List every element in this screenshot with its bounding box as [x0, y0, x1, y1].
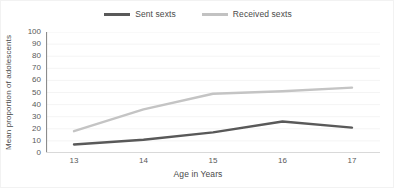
x-axis-tick-label: 16 [278, 157, 287, 165]
legend-label-received-sexts: Received sexts [233, 9, 292, 19]
chart-legend: Sent sexts Received sexts [1, 5, 394, 23]
plot-area [46, 32, 380, 153]
y-axis-title-text: Mean proportion of adolescents [5, 34, 14, 149]
y-axis-tick-label: 30 [32, 113, 41, 121]
x-axis-tick-label: 13 [70, 157, 79, 165]
y-axis-tick-label: 60 [32, 76, 41, 84]
plot-svg [46, 32, 380, 153]
y-axis-tick-label: 100 [28, 28, 41, 36]
gridlines [46, 32, 380, 153]
y-axis-title: Mean proportion of adolescents [3, 29, 15, 155]
y-axis-tick-label: 20 [32, 125, 41, 133]
legend-item-received-sexts: Received sexts [202, 9, 292, 19]
y-axis-tick-label: 70 [32, 64, 41, 72]
x-axis-tick-labels: 1314151617 [46, 157, 380, 169]
y-axis-tick-label: 40 [32, 101, 41, 109]
x-axis-title: Age in Years [1, 169, 394, 179]
y-axis-tick-label: 10 [32, 137, 41, 145]
legend-line-swatch-icon [104, 13, 130, 16]
x-axis-tick-label: 17 [348, 157, 357, 165]
y-axis-tick-label: 50 [32, 89, 41, 97]
y-axis-tick-label: 80 [32, 52, 41, 60]
y-axis-tick-label: 0 [37, 149, 41, 157]
x-axis-tick-label: 15 [209, 157, 218, 165]
x-axis-tick-label: 14 [139, 157, 148, 165]
y-axis-tick-labels: 1009080706050403020100 [17, 27, 43, 157]
y-axis-tick-label: 90 [32, 40, 41, 48]
data-series-layer [74, 88, 352, 145]
legend-line-swatch-icon [202, 13, 228, 16]
legend-item-sent-sexts: Sent sexts [104, 9, 176, 19]
legend-label-sent-sexts: Sent sexts [135, 9, 176, 19]
line-chart: Sent sexts Received sexts Mean proportio… [0, 0, 394, 188]
